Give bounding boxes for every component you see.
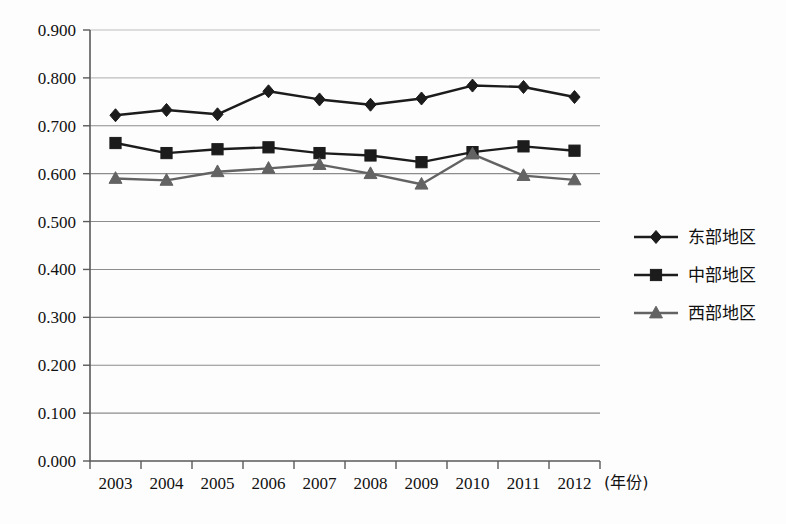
y-tick-label: 0.000 [38,452,76,471]
data-point-marker [263,85,274,98]
x-tick-label: 2010 [456,474,490,493]
data-point-marker [314,93,325,106]
data-point-marker [263,142,274,153]
legend-marker [650,269,661,280]
data-point-marker [518,141,529,152]
axis-lines [90,30,600,461]
legend-item-3[interactable]: 西部地区 [634,303,756,323]
data-point-marker [110,137,121,148]
x-axis-unit-label: (年份) [604,473,648,492]
data-point-marker [416,92,427,105]
series-line [116,143,575,162]
y-tick-label: 0.800 [38,69,76,88]
data-point-marker [569,145,580,156]
data-point-marker [416,157,427,168]
data-point-marker [569,91,580,104]
y-tick-label: 0.200 [38,356,76,375]
data-point-marker [467,79,478,92]
data-series [109,79,581,189]
x-axis-tick-labels: 2003200420052006200720082009201020112012 [99,474,592,493]
data-point-marker [313,158,326,170]
data-point-marker [161,103,172,116]
y-axis-tick-labels: 0.0000.1000.2000.3000.4000.5000.6000.700… [38,21,76,471]
data-point-marker [365,150,376,161]
y-tick-label: 0.400 [38,260,76,279]
legend-label: 中部地区 [688,265,756,285]
legend-label: 东部地区 [688,227,756,247]
x-tick-label: 2003 [99,474,133,493]
data-point-marker [212,108,223,121]
series-line [116,86,575,116]
line-chart: 0.0000.1000.2000.3000.4000.5000.6000.700… [0,0,786,524]
x-axis-unit-text: (年份) [604,473,648,492]
y-tick-label: 0.500 [38,213,76,232]
x-tick-label: 2008 [354,474,388,493]
data-point-marker [110,109,121,122]
series-2 [110,137,580,167]
chart-container: 0.0000.1000.2000.3000.4000.5000.6000.700… [0,0,786,524]
chart-legend: 东部地区中部地区西部地区 [634,227,756,323]
x-tick-label: 2006 [252,474,286,493]
y-tick-label: 0.300 [38,308,76,327]
data-point-marker [365,98,376,111]
series-1 [110,79,580,122]
data-point-marker [212,144,223,155]
x-tick-label: 2009 [405,474,439,493]
legend-label: 西部地区 [688,303,756,323]
x-tick-label: 2007 [303,474,338,493]
x-tick-label: 2005 [201,474,235,493]
x-tick-label: 2004 [150,474,185,493]
legend-item-2[interactable]: 中部地区 [634,265,756,285]
y-tick-label: 0.700 [38,117,76,136]
y-tick-label: 0.900 [38,21,76,40]
chart-axes [83,30,600,469]
data-point-marker [518,80,529,93]
y-tick-label: 0.600 [38,165,76,184]
data-point-marker [161,147,172,158]
legend-marker [650,231,661,244]
x-tick-label: 2011 [507,474,540,493]
legend-item-1[interactable]: 东部地区 [634,227,756,247]
series-line [116,154,575,184]
x-tick-label: 2012 [558,474,592,493]
y-tick-label: 0.100 [38,404,76,423]
